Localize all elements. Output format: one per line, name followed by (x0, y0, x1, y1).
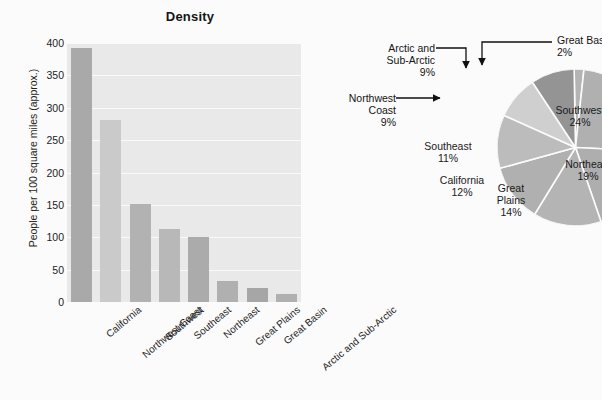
bar-southeast (159, 229, 180, 302)
location-pie-chart-panel: Location Great Basin 2% Arctic and (330, 0, 602, 400)
callout-arctic-pct: 9% (340, 66, 435, 78)
bar-series (67, 43, 301, 302)
bar-plot-area (67, 43, 301, 302)
bar-great-plains (217, 281, 238, 302)
callout-northwest-pct: 9% (322, 116, 396, 128)
slice-label-california-name: California (426, 174, 498, 186)
bar-southwest (130, 204, 151, 302)
bar-california (71, 48, 92, 302)
slice-label-california-pct: 12% (426, 186, 498, 198)
y-tick-label: 250 (18, 134, 64, 146)
figure-root: Density People per 100 square miles (app… (0, 0, 602, 400)
y-tick-label: 300 (18, 102, 64, 114)
callout-northwest-line2: Coast (322, 104, 396, 116)
callout-northwest-line1: Northwest (322, 92, 396, 104)
slice-label-northeast: Northeast 19% (545, 158, 602, 182)
callout-great-basin-name: Great Basin (557, 34, 602, 46)
bar-northwest-coast (100, 120, 121, 302)
slice-label-southeast: Southeast 11% (408, 140, 488, 164)
y-tick-label: 200 (18, 167, 64, 179)
slice-label-southwest: Southwest 24% (535, 104, 602, 128)
y-axis-tick-labels: 050100150200250300350400 (12, 43, 64, 302)
x-axis-tick-labels: CaliforniaNorthwest CoastSouthwestSouthe… (67, 304, 301, 394)
y-tick-label: 50 (18, 264, 64, 276)
callout-arctic-line2: Sub-Arctic (340, 54, 435, 66)
slice-label-southeast-pct: 11% (408, 152, 488, 164)
slice-label-southwest-pct: 24% (535, 116, 602, 128)
x-tick-label: California (104, 304, 143, 340)
slice-label-california: California 12% (426, 174, 498, 198)
callout-arctic-line1: Arctic and (340, 42, 435, 54)
bar-arctic-and-sub-arctic (276, 294, 297, 302)
callout-northwest-coast: Northwest Coast 9% (322, 92, 396, 128)
y-tick-label: 0 (18, 296, 64, 308)
bar-great-basin (247, 288, 268, 302)
y-tick-label: 400 (18, 37, 64, 49)
y-tick-label: 350 (18, 69, 64, 81)
callout-great-basin-pct: 2% (557, 46, 602, 58)
slice-label-southwest-name: Southwest (535, 104, 602, 116)
slice-label-northeast-pct: 19% (545, 170, 602, 182)
slice-label-southeast-name: Southeast (408, 140, 488, 152)
density-chart-title: Density (95, 9, 285, 24)
slice-label-northeast-name: Northeast (545, 158, 602, 170)
density-bar-chart-panel: Density People per 100 square miles (app… (0, 0, 330, 400)
y-tick-label: 100 (18, 231, 64, 243)
callout-arctic-sub-arctic: Arctic and Sub-Arctic 9% (340, 42, 435, 78)
callout-great-basin: Great Basin 2% (557, 34, 602, 58)
slice-label-great-plains-pct: 14% (480, 206, 542, 218)
y-tick-label: 150 (18, 199, 64, 211)
bar-northeast (188, 237, 209, 302)
